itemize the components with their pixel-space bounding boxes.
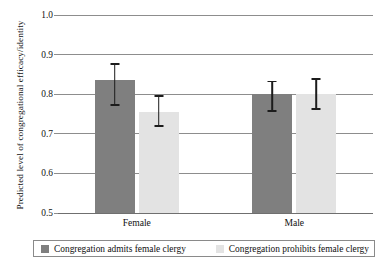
y-axis-tick-label: 0.6: [41, 168, 53, 178]
error-bar-line: [158, 96, 160, 126]
legend-swatch-prohibits-icon: [216, 245, 224, 253]
error-bar-cap-upper: [154, 95, 163, 97]
legend-swatch-admits-icon: [41, 245, 49, 253]
error-bar-cap-lower: [154, 125, 163, 127]
bar-male-series2: [296, 94, 336, 213]
error-bar-line: [315, 79, 317, 109]
y-axis-tick-label: 0.7: [41, 129, 53, 139]
error-bar-cap-lower: [268, 110, 277, 112]
legend-item-prohibits: Congregation prohibits female clergy: [216, 241, 369, 256]
legend-item-admits: Congregation admits female clergy: [41, 241, 186, 256]
y-axis-tick-label: 0.5: [41, 208, 53, 218]
y-axis-tick-label: 0.9: [41, 50, 53, 60]
y-axis-tickmark: [54, 173, 58, 174]
error-bar-cap-upper: [312, 78, 321, 80]
bar-female-series2: [139, 112, 179, 213]
gridline: [58, 15, 373, 16]
y-axis-tickmark: [54, 54, 58, 55]
y-axis-tick-label: 1.0: [41, 10, 53, 20]
chart-legend: Congregation admits female clergy Congre…: [33, 240, 375, 257]
y-axis-tickmark: [54, 94, 58, 95]
y-axis-tickmark: [54, 15, 58, 16]
error-bar-cap-lower: [110, 104, 119, 106]
legend-label-admits: Congregation admits female clergy: [54, 244, 186, 254]
error-bar-line: [271, 82, 273, 112]
plot-area: 1.00.90.80.70.60.5: [58, 15, 373, 213]
error-bar-line: [114, 64, 116, 106]
error-bar-cap-lower: [312, 108, 321, 110]
error-bar-cap-upper: [268, 81, 277, 83]
x-axis-label-female: Female: [123, 217, 151, 228]
y-axis-title: Predicted level of congregational effica…: [15, 0, 25, 230]
y-axis-tickmark: [54, 213, 58, 214]
error-bar-cap-upper: [110, 63, 119, 65]
bar-chart-figure: Predicted level of congregational effica…: [0, 0, 381, 270]
y-axis-tickmark: [54, 133, 58, 134]
y-axis-tick-label: 0.8: [41, 89, 53, 99]
legend-label-prohibits: Congregation prohibits female clergy: [229, 244, 369, 254]
gridline: [58, 54, 373, 55]
x-axis-label-male: Male: [284, 217, 304, 228]
